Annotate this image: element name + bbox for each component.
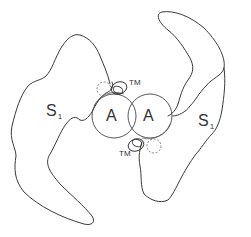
right-s1-lower-outline — [139, 68, 225, 202]
left-s1-letter: S — [46, 102, 57, 119]
diagram-canvas: S1 S1 A A TM TM — [0, 0, 251, 237]
left-s1-outline — [11, 35, 110, 225]
right-s1-subscript: 1 — [210, 122, 214, 131]
right-domain-label: A — [143, 108, 154, 124]
left-domain-label: A — [106, 108, 117, 124]
right-domain-rim — [142, 124, 170, 139]
right-dashed-circle — [147, 139, 161, 153]
bottom-tm-label: TM — [119, 150, 131, 158]
left-dashed-circle — [97, 82, 111, 96]
right-s1-outline — [158, 12, 224, 116]
left-s1-label: S1 — [46, 103, 61, 119]
top-tm-label: TM — [129, 79, 141, 87]
right-s1-label: S1 — [198, 113, 213, 129]
right-s1-letter: S — [198, 112, 209, 129]
left-s1-subscript: 1 — [58, 112, 62, 121]
diagram-svg — [0, 0, 251, 237]
